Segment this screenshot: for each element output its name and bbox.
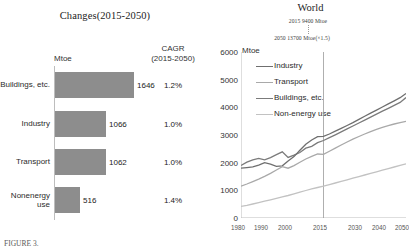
bar-category-label: Industry (0, 107, 50, 141)
y-tick-label: 2000 (212, 159, 238, 168)
line-chart-title: World (212, 2, 409, 13)
y-tick-label: 4000 (212, 103, 238, 112)
annotation-2050: 2050 13700 Mtoe(×1.5) (232, 35, 372, 41)
cagr-header-line1: CAGR (140, 44, 206, 54)
bar-row: Nonenergy use 516 1.4% (0, 183, 210, 217)
x-tick-label: 1990 (254, 224, 268, 231)
bar-rect (55, 149, 106, 175)
figure-root: Changes(2015-2050) Mtoe CAGR (2015-2050)… (0, 0, 409, 249)
bar-cagr-value: 1.4% (140, 183, 206, 217)
x-tick-label: 2000 (278, 224, 292, 231)
y-tick-label: 3000 (212, 131, 238, 140)
x-tick-label: 2040 (372, 224, 386, 231)
annotation-2015: 2015 9400 Mtoe (238, 18, 378, 24)
y-tick-label: 5000 (212, 76, 238, 85)
line-chart-plot-area (241, 52, 406, 218)
bar-category-label: Nonenergy use (0, 183, 50, 217)
annotation-connector (308, 25, 309, 34)
x-tick-label: 2030 (348, 224, 362, 231)
x-tick-label: 1980 (231, 224, 245, 231)
bar-row: Buildings, etc. 1646 1.2% (0, 68, 210, 102)
x-tick-label: 2050 (395, 224, 409, 231)
bar-rect (55, 187, 80, 213)
bar-rect (55, 111, 106, 137)
cagr-column-header: CAGR (2015-2050) (140, 44, 206, 64)
line-chart-panel: World 2015 9400 Mtoe 2050 13700 Mtoe(×1.… (212, 0, 409, 240)
bar-value-label: 1066 (109, 107, 127, 141)
bar-row: Transport 1062 1.0% (0, 145, 210, 179)
cagr-header-line2: (2015-2050) (140, 54, 206, 64)
bar-value-label: 1062 (109, 145, 127, 179)
bar-category-label: Transport (0, 145, 50, 179)
bar-value-label: 516 (83, 183, 96, 217)
bar-cagr-value: 1.2% (140, 68, 206, 102)
bar-row: Industry 1066 1.0% (0, 107, 210, 141)
bar-rect (55, 72, 134, 98)
bar-cagr-value: 1.0% (140, 107, 206, 141)
bar-cagr-value: 1.0% (140, 145, 206, 179)
bar-category-label: Buildings, etc. (0, 68, 50, 102)
x-tick-label: 2015 (313, 224, 327, 231)
bar-chart-title: Changes(2015-2050) (0, 10, 210, 21)
bar-chart-axis-label: Mtoe (54, 54, 72, 63)
bar-chart-panel: Changes(2015-2050) Mtoe CAGR (2015-2050)… (0, 0, 210, 232)
y-tick-label: 1000 (212, 186, 238, 195)
y-tick-label: 6000 (212, 48, 238, 57)
figure-caption: FIGURE 3. (4, 239, 334, 249)
y-tick-label: 0 (212, 214, 238, 223)
